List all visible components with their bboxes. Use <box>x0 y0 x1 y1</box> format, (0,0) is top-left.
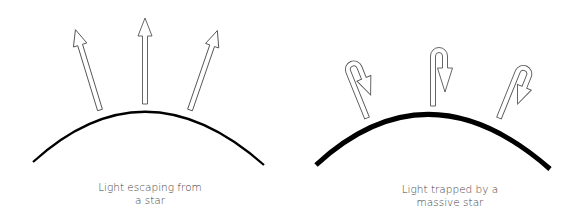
caption-right-line2: massive star <box>395 196 505 209</box>
left-panel <box>33 18 264 165</box>
escaping-arrow-center <box>138 18 152 104</box>
caption-light-trapped: Light trapped by a massive star <box>395 183 505 209</box>
trapped-arrow-center <box>431 48 453 107</box>
caption-left-line2: a star <box>95 194 205 207</box>
right-panel <box>316 48 550 170</box>
trapped-arrow-left <box>343 56 385 118</box>
caption-right-line1: Light trapped by a <box>395 183 505 196</box>
escaping-arrow-right <box>183 28 224 112</box>
caption-light-escaping: Light escaping from a star <box>95 181 205 207</box>
star-surface-right <box>316 114 550 169</box>
escaping-arrow-left <box>69 28 107 112</box>
caption-left-line1: Light escaping from <box>95 181 205 194</box>
trapped-arrow-right <box>497 63 539 125</box>
star-surface-left <box>33 112 264 165</box>
